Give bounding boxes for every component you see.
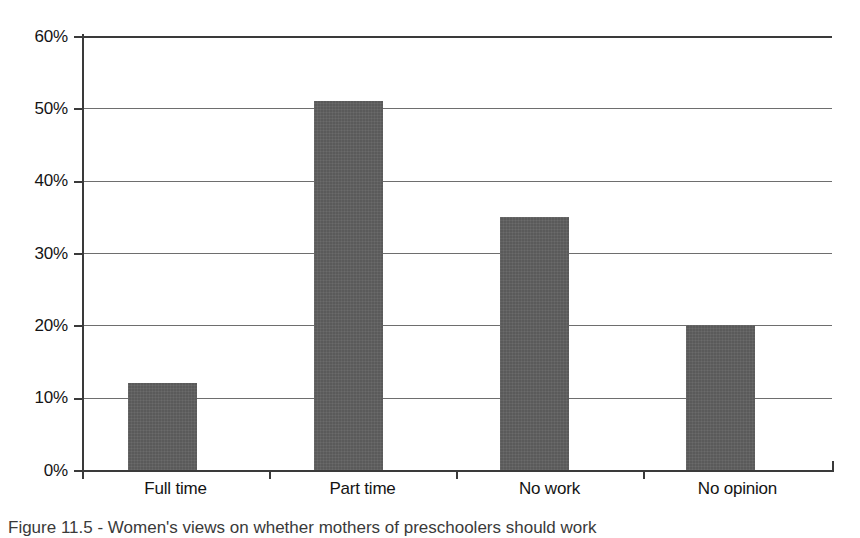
bar-full-time [128,383,197,470]
y-tick-label-30: 30% [6,245,68,262]
x-axis-tick-3 [643,470,645,479]
x-label-no-work: No work [456,479,643,499]
gridline-50 [82,108,832,109]
bar-no-opinion [686,325,755,470]
x-axis-tick-1 [269,470,271,479]
gridline-40 [82,181,832,182]
x-axis-tick-2 [456,470,458,479]
gridline-60 [82,36,832,38]
x-label-part-time: Part time [269,479,456,499]
x-label-full-time: Full time [82,479,269,499]
y-axis-line [82,34,84,472]
y-tick-label-10: 10% [6,389,68,406]
y-tick-label-60: 60% [6,28,68,45]
plot-area [82,36,832,470]
gridline-30 [82,253,832,254]
x-axis-tick-0 [82,470,84,479]
y-tick-label-50: 50% [6,100,68,117]
bar-no-work [500,217,569,470]
x-axis-end-tick [832,461,834,471]
figure-caption: Figure 11.5 - Women's views on whether m… [8,518,852,538]
y-tick-label-40: 40% [6,172,68,189]
x-label-no-opinion: No opinion [643,479,832,499]
bar-part-time [314,101,383,470]
y-tick-label-0: 0% [6,462,68,479]
y-tick-label-20: 20% [6,317,68,334]
